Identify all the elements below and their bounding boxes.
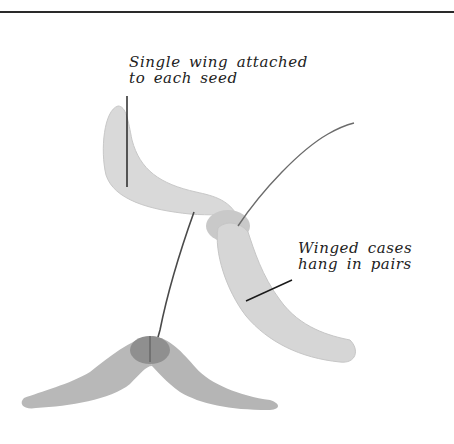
lower-right-wing (152, 336, 278, 410)
annotation-single-wing: Single wing attached to each seed (129, 54, 308, 86)
annotation-winged-cases-line-1: Winged cases (298, 240, 412, 256)
annotation-winged-cases-line-2: hang in pairs (298, 256, 412, 272)
upper-stalk (238, 123, 354, 226)
annotation-single-wing-line-1: Single wing attached (129, 54, 308, 70)
lower-stalk (153, 212, 194, 352)
annotation-winged-cases: Winged cases hang in pairs (298, 240, 412, 272)
annotation-single-wing-line-2: to each seed (129, 70, 308, 86)
upper-left-wing (103, 106, 240, 222)
